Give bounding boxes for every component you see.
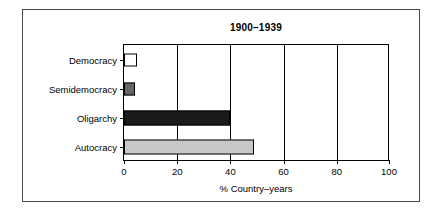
figure-frame: 1900–1939 Democracy Semidemocracy Oligar…	[22, 9, 420, 202]
bar-oligarchy[interactable]	[124, 111, 230, 126]
x-tick-100	[389, 160, 390, 164]
bar-row-autocracy: Autocracy	[124, 133, 388, 162]
chart-title: 1900–1939	[123, 22, 389, 33]
bar-democracy[interactable]	[124, 53, 137, 66]
x-tick-40	[230, 160, 231, 164]
y-axis-label-autocracy: Autocracy	[75, 142, 117, 153]
bar-semidemocracy[interactable]	[124, 82, 135, 95]
x-tick-label-100: 100	[381, 166, 397, 177]
x-axis-title: % Country–years	[124, 183, 388, 194]
y-axis-label-democracy: Democracy	[69, 54, 117, 65]
x-tick-label-40: 40	[225, 166, 236, 177]
x-tick-0	[124, 160, 125, 164]
y-axis-label-semidemocracy: Semidemocracy	[49, 83, 117, 94]
bar-row-semidemocracy: Semidemocracy	[124, 74, 388, 103]
plot-area: Democracy Semidemocracy Oligarchy Autocr…	[123, 44, 389, 161]
x-tick-80	[337, 160, 338, 164]
bar-row-democracy: Democracy	[124, 45, 388, 74]
x-tick-label-60: 60	[278, 166, 289, 177]
y-axis-label-oligarchy: Oligarchy	[77, 113, 117, 124]
x-tick-label-0: 0	[121, 166, 126, 177]
x-tick-label-20: 20	[172, 166, 183, 177]
bar-autocracy[interactable]	[124, 140, 254, 155]
x-tick-60	[284, 160, 285, 164]
x-tick-20	[177, 160, 178, 164]
x-tick-label-80: 80	[332, 166, 343, 177]
bar-row-oligarchy: Oligarchy	[124, 104, 388, 133]
